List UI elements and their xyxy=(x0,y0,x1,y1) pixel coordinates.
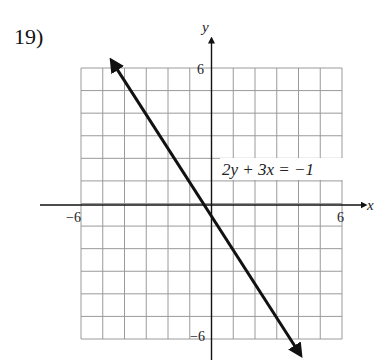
y-axis-label: y xyxy=(200,19,209,35)
y-min-tick: −6 xyxy=(190,329,205,344)
coordinate-graph: 2y + 3x = −1 y x 6 −6 −6 6 xyxy=(0,0,384,360)
equation-label: 2y + 3x = −1 xyxy=(222,160,314,179)
x-min-tick: −6 xyxy=(66,210,81,225)
x-axis-label: x xyxy=(366,197,374,213)
x-max-tick: 6 xyxy=(337,210,344,225)
equation-line xyxy=(114,64,299,352)
y-max-tick: 6 xyxy=(197,62,204,77)
